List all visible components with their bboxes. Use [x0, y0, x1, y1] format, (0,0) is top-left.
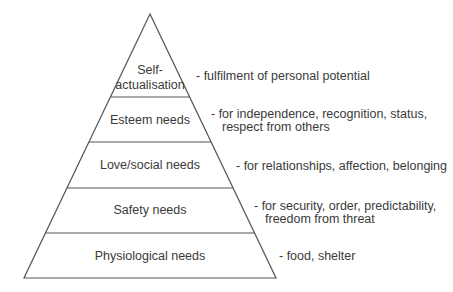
- level-label-line1: Self-: [100, 63, 200, 78]
- desc-esteem: - for independence, recognition, status,…: [211, 108, 427, 134]
- level-physiological: Physiological needs: [60, 249, 240, 264]
- desc-physiological: - food, shelter: [279, 250, 355, 263]
- pyramid-outline: [24, 14, 276, 278]
- desc-love-social: - for relationships, affection, belongin…: [236, 160, 447, 173]
- desc-line1: - fulfilment of personal potential: [196, 70, 370, 83]
- desc-line1: - for relationships, affection, belongin…: [236, 160, 447, 173]
- level-love-social: Love/social needs: [70, 158, 230, 173]
- level-self-actualisation: Self- actualisation: [100, 63, 200, 93]
- level-label-line2: actualisation: [100, 78, 200, 93]
- desc-line2: freedom from threat: [254, 213, 436, 226]
- desc-safety: - for security, order, predictability, f…: [254, 200, 436, 226]
- level-esteem: Esteem needs: [80, 113, 220, 128]
- desc-line2: respect from others: [211, 121, 427, 134]
- desc-self-actualisation: - fulfilment of personal potential: [196, 70, 370, 83]
- desc-line1: - food, shelter: [279, 250, 355, 263]
- level-safety: Safety needs: [70, 203, 230, 218]
